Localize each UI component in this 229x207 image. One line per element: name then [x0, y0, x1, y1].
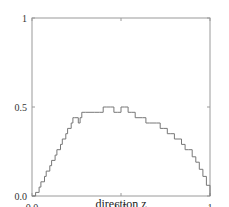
data-line: [32, 107, 210, 196]
x-tick-label: 0.0: [26, 202, 39, 207]
y-tick-label: 0.5: [15, 102, 28, 113]
line-chart: 0.00.510.00.51 direction z: [0, 0, 229, 207]
y-tick-label: 1: [22, 13, 27, 24]
y-tick-label: 0.0: [15, 191, 28, 202]
x-tick-label: 1: [208, 202, 213, 207]
x-axis-label: direction z: [96, 197, 147, 207]
